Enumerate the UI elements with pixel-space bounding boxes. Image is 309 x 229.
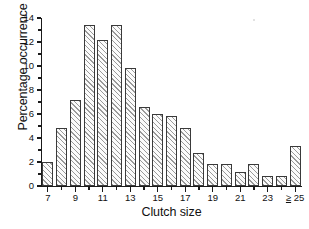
x-tick-24 — [281, 187, 282, 190]
bar — [262, 176, 273, 186]
chart-figure: Percentage occurrence 02468101214 791113… — [0, 0, 309, 229]
bar — [56, 128, 67, 186]
bar — [70, 100, 81, 186]
x-tick-label: 9 — [73, 193, 78, 203]
x-tick-23: 23 — [267, 187, 268, 192]
x-tick-18 — [198, 187, 199, 190]
x-tick-label: 23 — [262, 193, 273, 203]
x-tick-label: 7 — [45, 193, 50, 203]
y-tick-label: 6 — [29, 109, 34, 119]
x-tick-label: 13 — [125, 193, 136, 203]
bar — [111, 25, 122, 186]
x-tick-13: 13 — [130, 187, 131, 192]
bar — [139, 107, 150, 186]
x-tick-≥ 25: ≥ 25 — [295, 187, 296, 192]
bar — [221, 164, 232, 186]
bar — [235, 172, 246, 186]
bar — [207, 164, 218, 186]
x-tick-7: 7 — [47, 187, 48, 192]
y-tick-label: 0 — [29, 181, 34, 191]
bar — [248, 164, 259, 186]
y-tick-label: 4 — [29, 133, 34, 143]
x-tick-20 — [226, 187, 227, 190]
bar — [166, 116, 177, 186]
x-tick-label: 17 — [180, 193, 191, 203]
y-tick-label: 10 — [23, 61, 34, 71]
y-tick-label: 8 — [29, 85, 34, 95]
x-tick-11: 11 — [102, 187, 103, 192]
x-tick-21: 21 — [240, 187, 241, 192]
x-tick-label: 15 — [152, 193, 163, 203]
y-tick-label: 14 — [23, 13, 34, 23]
y-tick-label: 12 — [23, 37, 34, 47]
x-tick-14 — [143, 187, 144, 190]
bar — [180, 128, 191, 186]
bar — [42, 162, 53, 186]
x-tick-16 — [171, 187, 172, 190]
x-tick-8 — [61, 187, 62, 190]
x-tick-22 — [253, 187, 254, 190]
bar-series — [41, 18, 302, 186]
x-tick-15: 15 — [157, 187, 158, 192]
bar — [290, 146, 301, 186]
x-tick-label: 19 — [207, 193, 218, 203]
x-tick-label: 21 — [235, 193, 246, 203]
bar — [152, 114, 163, 186]
x-tick-12 — [116, 187, 117, 190]
bar — [97, 40, 108, 186]
plot-area: 02468101214 7911131517192123≥ 25 — [41, 18, 302, 186]
x-tick-label: ≥ 25 — [286, 193, 304, 203]
scan-speck — [253, 19, 255, 21]
bar — [276, 176, 287, 186]
bar — [84, 25, 95, 186]
x-tick-17: 17 — [185, 187, 186, 192]
x-axis-title: Clutch size — [41, 205, 302, 219]
y-tick-label: 2 — [29, 157, 34, 167]
x-tick-19: 19 — [212, 187, 213, 192]
x-tick-label: 11 — [98, 193, 108, 203]
x-tick-9: 9 — [75, 187, 76, 192]
bar — [193, 153, 204, 186]
bar — [125, 68, 136, 186]
x-tick-10 — [88, 187, 89, 190]
